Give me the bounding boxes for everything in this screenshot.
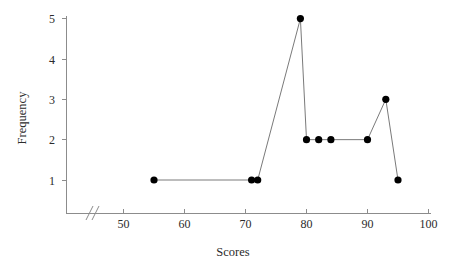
data-point xyxy=(297,15,304,22)
y-tick-label-1: 1 xyxy=(49,174,55,188)
data-point xyxy=(327,136,334,143)
frequency-polygon-figure: 5 4 3 2 1 50 60 70 80 90 100 Scores Freq… xyxy=(0,0,459,275)
y-tick-label-3: 3 xyxy=(49,93,55,107)
x-tick-label-50: 50 xyxy=(118,217,130,231)
data-point xyxy=(254,176,261,183)
y-tick-label-4: 4 xyxy=(49,53,55,67)
y-tick-label-5: 5 xyxy=(49,12,55,26)
data-point xyxy=(394,176,401,183)
data-point xyxy=(364,136,371,143)
x-tick-label-80: 80 xyxy=(301,217,313,231)
data-point xyxy=(303,136,310,143)
x-tick-label-90: 90 xyxy=(362,217,374,231)
chart-canvas: 5 4 3 2 1 50 60 70 80 90 100 Scores Freq… xyxy=(0,0,459,275)
y-axis-title: Frequency xyxy=(15,91,29,145)
y-tick-label-2: 2 xyxy=(49,133,55,147)
y-axis-ticks xyxy=(62,19,67,181)
x-axis-title: Scores xyxy=(216,245,249,259)
data-point xyxy=(315,136,322,143)
data-point xyxy=(382,96,389,103)
x-tick-label-60: 60 xyxy=(179,217,191,231)
x-axis-ticks xyxy=(124,209,429,214)
data-series-points xyxy=(150,15,401,184)
data-series-line xyxy=(154,19,398,180)
x-tick-label-100: 100 xyxy=(420,217,438,231)
data-point xyxy=(150,176,157,183)
x-tick-label-70: 70 xyxy=(240,217,252,231)
